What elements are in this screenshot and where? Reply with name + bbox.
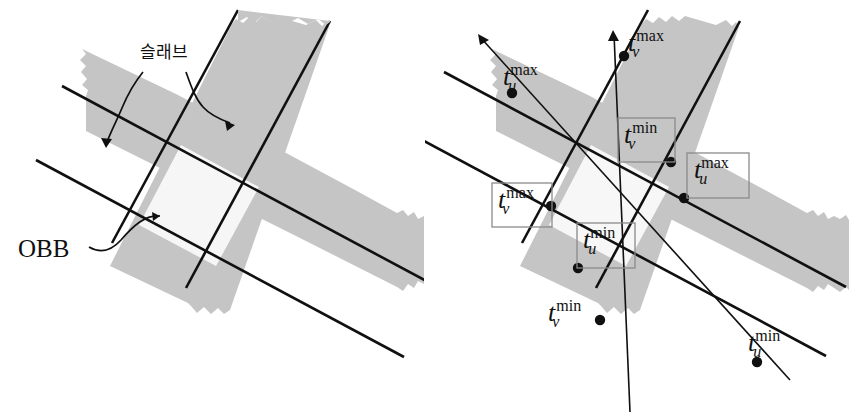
point-tv-max <box>546 201 556 211</box>
label-tu-max-left-sup: max <box>510 61 538 78</box>
label-tu-max: tumax <box>694 155 737 185</box>
label-tu-min-sup: min <box>590 224 615 241</box>
label-tv-min-bottom: tvmin <box>548 298 587 328</box>
label-tu-max-left: tumax <box>503 62 546 92</box>
figure-root: 슬래브 OBB <box>0 0 849 420</box>
label-tu-min-right-sub: u <box>753 343 761 360</box>
label-tv-min-sub: v <box>628 135 635 152</box>
label-tv-min-bottom-sub: v <box>552 313 559 330</box>
label-tu-min-sub: u <box>588 240 596 257</box>
label-tv-min-sup: min <box>632 119 657 136</box>
ray-v-arrowhead <box>608 30 619 41</box>
slab-label: 슬래브 <box>140 42 188 62</box>
label-tu-max-left-sub: u <box>508 77 516 94</box>
point-tv-min-bottom <box>595 315 605 325</box>
label-tv-min-bottom-sup: min <box>556 297 581 314</box>
label-tv-max-top: tvmax <box>628 28 670 58</box>
label-tu-max-sup: max <box>701 154 729 171</box>
left-panel-canvas: 슬래브 OBB <box>0 0 849 420</box>
label-tv-max-sup: max <box>506 184 534 201</box>
label-tu-max-sub: u <box>699 170 707 187</box>
left-panel-group: 슬래브 OBB <box>18 10 430 357</box>
label-tv-max-sub: v <box>502 200 509 217</box>
obb-label: OBB <box>18 235 69 262</box>
label-tu-min-right-sup: min <box>755 327 780 344</box>
label-tv-max-top-sub: v <box>632 43 639 60</box>
label-tu-min-right: tumin <box>748 328 788 358</box>
label-tv-max: tvmax <box>498 185 540 215</box>
label-tv-max-top-sup: max <box>636 27 664 44</box>
label-tv-min: tvmin <box>624 120 663 150</box>
label-tu-min: tumin <box>583 225 623 255</box>
